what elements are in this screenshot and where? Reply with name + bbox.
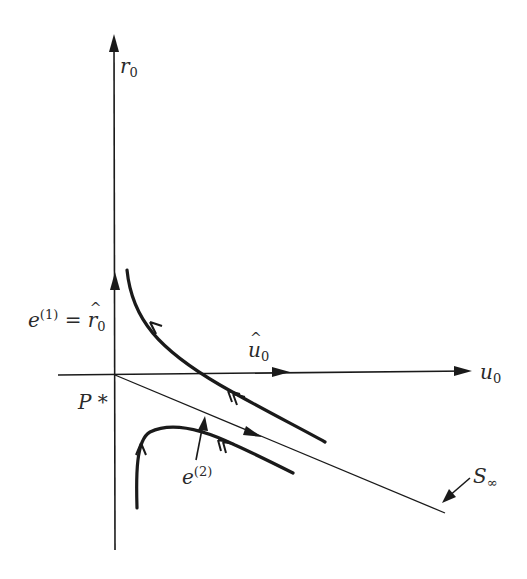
e2-pointer [196,416,208,460]
e1-base: e [28,308,40,332]
e2-label: e(2) [182,465,212,487]
s-infinity-label: S∞ [473,466,498,489]
e1-label: e(1) = r0 [28,308,106,333]
origin-label: P * [78,392,108,412]
r-hat-sub: 0 [97,319,105,334]
e2-pointer-arrow-icon [198,416,208,431]
r-hat-base: r [88,310,98,330]
u0-axis [58,366,472,377]
e2-sup: (2) [194,464,212,479]
e1-eigenvector-arrow-icon [110,272,120,290]
u-hat-base: u [248,340,261,360]
s-inf-sub: ∞ [487,475,498,490]
r0-sub: 0 [130,65,138,80]
s-inf-base: S [473,464,487,488]
r0-base: r [120,54,130,78]
e2-base: e [182,465,194,489]
e1-equals: = [65,308,82,332]
u0-base: u [480,360,493,384]
e1-sup: (1) [40,307,58,322]
u-hat-arrow-icon [272,367,290,377]
u0-sub: 0 [493,371,501,386]
u-hat-sub: 0 [261,349,269,364]
phase-portrait-diagram [0,0,527,579]
s-infinity-pointer [442,478,470,503]
p-star-text: P * [78,390,108,414]
s-infinity-line [115,375,445,513]
trajectory-upper [127,270,325,442]
u-hat-label: u0 [248,340,269,363]
r0-axis-label: r0 [120,56,138,79]
u0-axis-arrow-icon [454,366,472,376]
r0-axis-arrow-icon [109,34,119,52]
u0-axis-label: u0 [480,362,501,385]
r0-axis [109,34,119,550]
s-infinity-flow-arrow-icon [243,426,262,437]
